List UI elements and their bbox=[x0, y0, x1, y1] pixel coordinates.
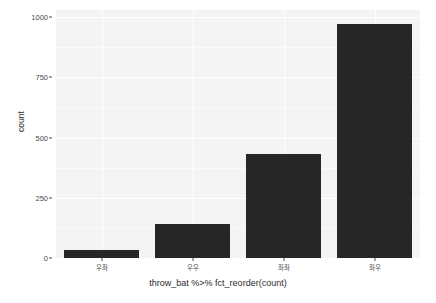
y-tick-label: 750 bbox=[24, 73, 48, 82]
y-tick-mark bbox=[49, 258, 52, 259]
bar bbox=[155, 224, 230, 258]
x-tick-label: 우좌 bbox=[96, 262, 108, 272]
x-axis-title: throw_bat %>% fct_reorder(count) bbox=[0, 278, 436, 288]
y-tick-label: 250 bbox=[24, 193, 48, 202]
plot-panel bbox=[56, 10, 420, 258]
y-tick-mark bbox=[49, 77, 52, 78]
bar bbox=[64, 250, 139, 258]
y-tick-label: 1000 bbox=[24, 13, 48, 22]
y-tick-label: 500 bbox=[24, 133, 48, 142]
x-axis-tick-labels: 우좌우우좌좌좌우 bbox=[56, 258, 420, 278]
x-tick-label: 좌우 bbox=[369, 262, 381, 272]
bar bbox=[337, 24, 412, 258]
y-tick-mark bbox=[49, 17, 52, 18]
x-tick-label: 좌좌 bbox=[278, 262, 290, 272]
x-tick-mark bbox=[374, 258, 375, 261]
y-tick-mark bbox=[49, 197, 52, 198]
x-tick-mark bbox=[192, 258, 193, 261]
bar-chart-figure: count 02505007501000 우좌우우좌좌좌우 throw_bat … bbox=[0, 0, 436, 303]
x-tick-label: 우우 bbox=[187, 262, 199, 272]
x-tick-mark bbox=[283, 258, 284, 261]
y-axis-tick-labels: 02505007501000 bbox=[24, 0, 48, 303]
bar bbox=[246, 154, 321, 258]
x-tick-mark bbox=[101, 258, 102, 261]
gridline-major-y bbox=[56, 17, 420, 18]
gridline-major-x bbox=[193, 10, 194, 258]
y-tick-label: 0 bbox=[24, 254, 48, 263]
y-tick-mark bbox=[49, 137, 52, 138]
gridline-major-x bbox=[102, 10, 103, 258]
